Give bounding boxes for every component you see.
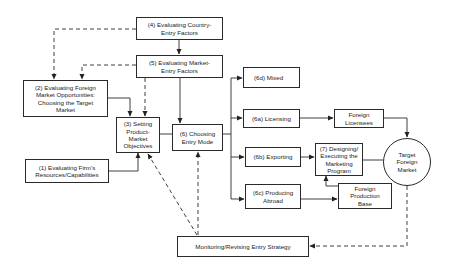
foreign-production-base-label: Foreign Production Base: [350, 185, 380, 207]
monitoring-revising-label: Monitoring/Revising Entry Strategy: [195, 243, 290, 250]
country-entry-factors-box: (4) Evaluating Country- Entry Factors: [136, 17, 223, 40]
product-market-objectives-box: (3) Setting Product- Market Objectives: [116, 117, 160, 153]
firm-resources-label: (1) Evaluating Firm's Resources/Capabili…: [35, 164, 98, 179]
entry-strategy-diagram: (4) Evaluating Country- Entry Factors (5…: [0, 0, 449, 267]
firm-resources-box: (1) Evaluating Firm's Resources/Capabili…: [25, 159, 109, 183]
market-entry-factors-label: (5) Evaluating Market- Entry Factors: [149, 59, 210, 74]
mixed-box: (6d) Mixed: [243, 67, 300, 88]
licensing-box: (6a) Licensing: [243, 109, 300, 128]
exporting-box: (6b) Exporting: [245, 147, 301, 167]
choosing-entry-mode-box: (6) Choosing Entry Mode: [172, 124, 223, 151]
choosing-entry-mode-label: (6) Choosing Entry Mode: [180, 130, 215, 145]
product-market-objectives-label: (3) Setting Product- Market Objectives: [124, 120, 153, 150]
foreign-market-opportunities-box: (2) Evaluating Foreign Market Opportunit…: [23, 80, 108, 117]
mixed-label: (6d) Mixed: [254, 74, 283, 81]
producing-abroad-box: (6c) Producing Abroad: [245, 184, 301, 209]
target-foreign-market-label: Target Foreign Market: [397, 151, 418, 173]
foreign-licensees-label: Foreign Licensees: [345, 111, 373, 126]
target-foreign-market-circle: Target Foreign Market: [383, 138, 431, 186]
exporting-label: (6b) Exporting: [254, 153, 293, 160]
foreign-licensees-box: Foreign Licensees: [334, 109, 384, 128]
country-entry-factors-label: (4) Evaluating Country- Entry Factors: [148, 21, 212, 36]
foreign-market-opportunities-label: (2) Evaluating Foreign Market Opportunit…: [35, 84, 96, 114]
producing-abroad-label: (6c) Producing Abroad: [253, 189, 293, 204]
market-entry-factors-box: (5) Evaluating Market- Entry Factors: [136, 55, 223, 78]
marketing-program-label: (7) Designing/ Executing the Marketing P…: [320, 145, 359, 175]
foreign-production-base-box: Foreign Production Base: [338, 183, 392, 209]
marketing-program-box: (7) Designing/ Executing the Marketing P…: [315, 143, 363, 176]
connector-lines: [0, 0, 449, 267]
monitoring-revising-box: Monitoring/Revising Entry Strategy: [177, 236, 309, 257]
licensing-label: (6a) Licensing: [252, 115, 291, 122]
